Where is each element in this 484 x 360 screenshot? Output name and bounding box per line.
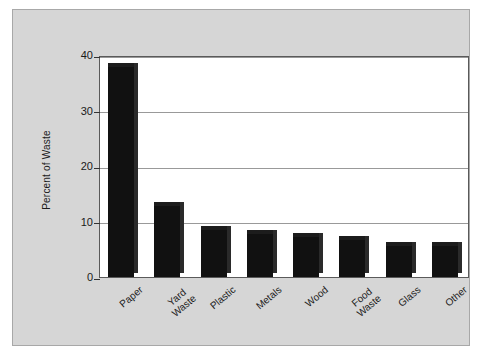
bar-side-shadow <box>180 202 184 273</box>
bar-side-shadow <box>227 226 231 273</box>
y-axis-tick-label: 0 <box>87 272 93 283</box>
y-axis-tick-label: 20 <box>81 161 93 172</box>
bar <box>201 230 227 277</box>
bar-top-face <box>154 202 180 206</box>
y-axis-tick-labels: 010203040 <box>65 56 93 278</box>
x-axis-tick-label-text: Other <box>443 284 469 309</box>
bar <box>432 246 458 277</box>
gridline <box>100 57 468 58</box>
bar <box>108 67 134 277</box>
y-axis-tick-mark <box>94 57 100 58</box>
bar-top-face <box>339 236 365 240</box>
bar <box>386 246 412 277</box>
bar-top-face <box>386 242 412 246</box>
bar-top-face <box>201 226 227 230</box>
y-axis-tick-label: 30 <box>81 106 93 117</box>
bar-top-face <box>293 233 319 237</box>
bar-side-shadow <box>273 230 277 273</box>
bar-top-face <box>108 63 134 67</box>
gridline <box>100 168 468 169</box>
bar <box>339 240 365 277</box>
x-axis-tick-label-text: Paper <box>118 284 146 310</box>
x-axis-tick-label-text: Plastic <box>208 284 238 311</box>
x-axis-tick-label-text: Glass <box>396 284 423 309</box>
y-axis-tick-label: 10 <box>81 217 93 228</box>
y-axis-tick-mark <box>94 168 100 169</box>
bar-side-shadow <box>134 63 138 273</box>
x-axis-tick-label-text: Metals <box>254 284 284 311</box>
bar-side-shadow <box>319 233 323 273</box>
bar-side-shadow <box>412 242 416 273</box>
bar <box>154 206 180 277</box>
x-axis-tick-label-text: Wood <box>303 284 330 309</box>
y-axis-tick-mark <box>94 223 100 224</box>
x-axis-tick-label-text: Yard Waste <box>163 284 199 319</box>
bar-top-face <box>247 230 273 234</box>
bar <box>293 237 319 277</box>
x-axis-tick-labels: PaperYard WastePlasticMetalsWoodFood Was… <box>99 278 469 348</box>
bar-top-face <box>432 242 458 246</box>
figure-panel: Percent of Waste 010203040 PaperYard Was… <box>12 9 470 346</box>
y-axis-tick-mark <box>94 112 100 113</box>
y-axis-title-text: Percent of Waste <box>41 130 52 210</box>
y-axis-tick-label: 40 <box>81 50 93 61</box>
gridline <box>100 112 468 113</box>
bar-side-shadow <box>458 242 462 273</box>
y-axis-title: Percent of Waste <box>39 110 53 230</box>
bar-side-shadow <box>365 236 369 273</box>
plot-inner <box>100 57 468 277</box>
x-axis-tick-label-text: Food Waste <box>348 284 384 319</box>
plot-area <box>99 56 469 278</box>
chart-figure: Percent of Waste 010203040 PaperYard Was… <box>0 0 484 360</box>
bar <box>247 234 273 277</box>
